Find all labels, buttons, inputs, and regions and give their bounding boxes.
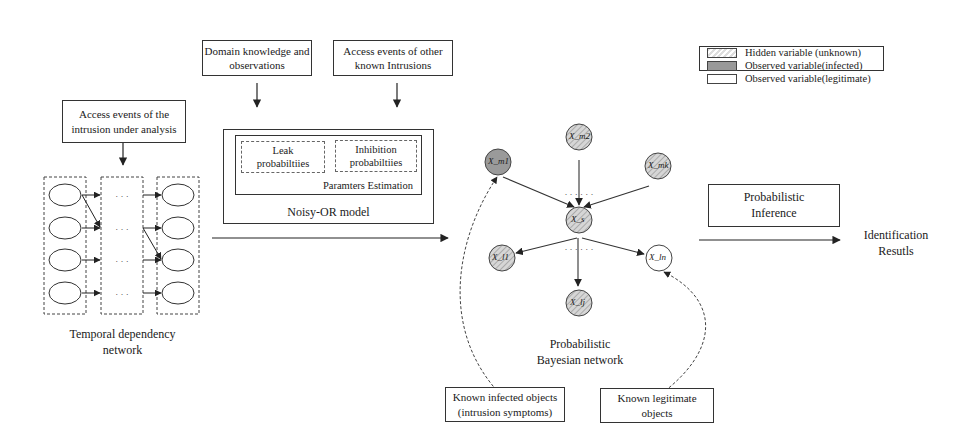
temporal-network-graph: · · · · · · · · · · · · xyxy=(44,177,199,314)
output-line1: Identification xyxy=(848,227,944,243)
node-x-m1: X_m1 xyxy=(488,156,509,166)
node-x-l1: X_l1 xyxy=(492,252,509,262)
legit-line1: Known legitimate xyxy=(617,391,696,405)
svg-text:· · ·: · · · xyxy=(115,256,129,266)
gray-swatch-icon xyxy=(707,61,737,71)
known-legitimate-box: Known legitimate objects xyxy=(600,388,714,423)
legit-line2: objects xyxy=(641,406,672,420)
node-x-m2: X_m2 xyxy=(569,131,590,141)
temporal-network-label: Temporal dependency network xyxy=(40,326,205,358)
leak-probabilities-box: Leak probabiltiies xyxy=(241,141,325,173)
svg-text:· · ·: · · · xyxy=(115,289,129,299)
legend-label: Observed variable(legitimate) xyxy=(745,73,871,84)
parameters-estimation-label: Paramters Estimation xyxy=(323,180,413,191)
white-swatch-icon xyxy=(707,74,737,84)
known-infected-box: Known infected objects (intrusion sympto… xyxy=(445,387,565,422)
other-intrusions-box: Access events of other known Intrusions xyxy=(333,40,453,76)
other-line2: known Intrusions xyxy=(355,58,432,72)
input-box-line1: Access events of the xyxy=(79,107,169,121)
legend-item-legitimate: Observed variable(legitimate) xyxy=(707,72,871,85)
temporal-label-line1: Temporal dependency xyxy=(40,326,205,342)
svg-text:· · ·: · · · xyxy=(115,191,129,201)
inhibition-probabilities-box: Inhibition probabiltiies xyxy=(335,140,417,172)
legend-label: Observed variable(infected) xyxy=(745,60,862,71)
legend-item-hidden: Hidden variable (unknown) xyxy=(707,46,871,59)
inference-line1: Probabilistic xyxy=(744,190,805,206)
temporal-label-line2: network xyxy=(40,342,205,358)
inference-line2: Inference xyxy=(751,206,796,222)
domain-line1: Domain knowledge and xyxy=(204,44,309,58)
leak-line1: Leak xyxy=(242,144,324,157)
inhibition-line2: probabiltiies xyxy=(336,156,416,169)
hatched-swatch-icon xyxy=(707,48,737,58)
inhibition-line1: Inhibition xyxy=(336,143,416,156)
svg-text:· · · · · ·: · · · · · · xyxy=(564,244,593,254)
infected-line2: (intrusion symptoms) xyxy=(458,405,552,419)
parameters-estimation-box: Leak probabiltiies Inhibition probabilti… xyxy=(235,135,422,195)
domain-knowledge-box: Domain knowledge and observations xyxy=(202,40,312,76)
input-events-box: Access events of the intrusion under ana… xyxy=(62,100,186,143)
probabilistic-inference-box: Probabilistic Inference xyxy=(708,184,840,227)
node-x-mk: X_mk xyxy=(648,160,669,170)
noisy-or-model-box: Leak probabiltiies Inhibition probabilti… xyxy=(223,129,434,224)
node-x-lj: X_lj xyxy=(570,297,585,307)
bayes-label-line2: Bayesian network xyxy=(520,352,640,368)
domain-line2: observations xyxy=(229,58,285,72)
leak-line2: probabiltiies xyxy=(242,157,324,170)
svg-text:· · · · · ·: · · · · · · xyxy=(564,189,593,199)
bayesian-network-label: Probabilistic Bayesian network xyxy=(520,336,640,368)
output-line2: Resutls xyxy=(848,243,944,259)
other-line1: Access events of other xyxy=(343,44,442,58)
legend-label: Hidden variable (unknown) xyxy=(745,47,861,58)
node-x-s: X_s xyxy=(571,214,585,224)
noisy-or-title: Noisy-OR model xyxy=(224,205,433,220)
svg-text:· · ·: · · · xyxy=(115,224,129,234)
input-box-line2: intrusion under analysis xyxy=(71,122,176,136)
legend-items: Hidden variable (unknown) Observed varia… xyxy=(707,46,871,85)
identification-results-label: Identification Resutls xyxy=(848,227,944,259)
bayes-label-line1: Probabilistic xyxy=(520,336,640,352)
legend-item-infected: Observed variable(infected) xyxy=(707,59,871,72)
infected-line1: Known infected objects xyxy=(453,390,557,404)
node-x-ln: X_ln xyxy=(649,252,666,262)
